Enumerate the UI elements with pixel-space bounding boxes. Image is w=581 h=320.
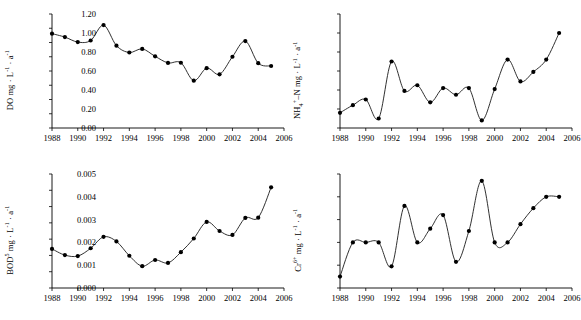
data-point-marker: [338, 111, 342, 115]
y-tick-label: 0.002: [77, 237, 96, 247]
data-point-marker: [544, 58, 548, 62]
data-point-marker: [428, 100, 432, 104]
data-point-marker: [269, 185, 273, 189]
data-point-marker: [493, 240, 497, 244]
y-tick-label: 0.40: [81, 85, 96, 95]
data-point-marker: [454, 260, 458, 264]
y-axis-label-bod5: BOD5 mg · L-1 · a-1: [2, 160, 18, 320]
data-point-marker: [531, 70, 535, 74]
data-point-marker: [63, 35, 67, 39]
y-tick-label: 0.001: [77, 260, 96, 270]
y-axis-label-cr6: Cr6+ mg · L-1 · a-1: [290, 160, 306, 320]
data-point-marker: [230, 233, 234, 237]
panel-do: DO mg · L-1 · a-1 0.01.02.03.04.05.06.07…: [0, 0, 288, 160]
y-tick-label: 0.00: [81, 123, 96, 133]
data-point-marker: [351, 103, 355, 107]
y-tick-label: 0.004: [77, 192, 96, 202]
data-point-marker: [467, 229, 471, 233]
data-point-marker: [217, 229, 221, 233]
data-point-marker: [518, 222, 522, 226]
data-point-marker: [557, 31, 561, 35]
y-tick-label: 0.000: [77, 283, 96, 293]
data-point-marker: [192, 79, 196, 83]
y-tick-label: 1.00: [81, 28, 96, 38]
data-point-marker: [153, 54, 157, 58]
data-point-marker: [205, 66, 209, 70]
y-tick-label: 0.20: [81, 104, 96, 114]
data-point-marker: [192, 236, 196, 240]
data-point-marker: [557, 195, 561, 199]
plot-svg-cr6: [306, 160, 576, 320]
plot-svg-nh4n: [306, 0, 576, 160]
data-point-marker: [101, 23, 105, 27]
data-point-marker: [364, 240, 368, 244]
data-point-marker: [493, 87, 497, 91]
data-point-marker: [441, 213, 445, 217]
data-point-marker: [544, 195, 548, 199]
data-point-marker: [50, 247, 54, 251]
data-point-marker: [230, 55, 234, 59]
data-point-marker: [338, 275, 342, 279]
data-point-marker: [101, 235, 105, 239]
axis-lines: [340, 14, 572, 128]
data-point-marker: [377, 116, 381, 120]
data-point-marker: [50, 32, 54, 36]
data-point-marker: [402, 89, 406, 93]
data-point-marker: [153, 258, 157, 262]
data-point-marker: [127, 50, 131, 54]
data-point-marker: [217, 72, 221, 76]
data-point-marker: [402, 204, 406, 208]
data-point-marker: [114, 239, 118, 243]
y-axis-label-nh4n: NH4+–N mg · L-1 · a-1: [290, 0, 306, 160]
data-point-marker: [389, 264, 393, 268]
data-point-marker: [415, 83, 419, 87]
plot-area-cr6: 0.0000.0010.0020.0030.0040.005 198819901…: [306, 160, 576, 320]
data-point-marker: [114, 44, 118, 48]
y-tick-label: 1.20: [81, 9, 96, 19]
data-point-marker: [351, 240, 355, 244]
data-point-marker: [179, 61, 183, 65]
data-point-marker: [256, 216, 260, 220]
data-point-marker: [243, 39, 247, 43]
y-tick-label: 0.003: [77, 215, 96, 225]
data-point-marker: [166, 261, 170, 265]
plot-area-bod5: 0.000.501.001.502.002.503.003.50 1988199…: [18, 160, 288, 320]
axis-lines: [340, 174, 572, 288]
data-point-marker: [205, 220, 209, 224]
y-tick-label: 0.005: [77, 169, 96, 179]
data-point-marker: [505, 58, 509, 62]
data-point-marker: [63, 253, 67, 257]
data-point-marker: [256, 61, 260, 65]
panel-nh4n: NH4+–N mg · L-1 · a-1 0.000.200.400.600.…: [288, 0, 576, 160]
data-point-marker: [441, 86, 445, 90]
plot-area-nh4n: 0.000.200.400.600.801.001.20 19881990199…: [306, 0, 576, 160]
data-point-marker: [76, 40, 80, 44]
y-tick-label: 0.80: [81, 47, 96, 57]
data-point-marker: [166, 61, 170, 65]
data-point-marker: [364, 97, 368, 101]
data-series-line: [340, 181, 559, 277]
data-point-marker: [428, 227, 432, 231]
data-point-marker: [243, 216, 247, 220]
data-point-marker: [480, 179, 484, 183]
data-point-marker: [454, 93, 458, 97]
data-point-marker: [89, 38, 93, 42]
data-point-marker: [140, 47, 144, 51]
data-series-line: [340, 33, 559, 120]
data-point-marker: [480, 118, 484, 122]
data-point-marker: [389, 59, 393, 63]
data-point-marker: [467, 86, 471, 90]
panel-cr6: Cr6+ mg · L-1 · a-1 0.0000.0010.0020.003…: [288, 160, 576, 320]
data-point-marker: [377, 240, 381, 244]
plot-svg-bod5: [18, 160, 288, 320]
data-point-marker: [127, 254, 131, 258]
data-point-marker: [415, 240, 419, 244]
data-point-marker: [179, 250, 183, 254]
data-point-marker: [269, 64, 273, 68]
plot-area-do: 0.01.02.03.04.05.06.07.08.0 198819901992…: [18, 0, 288, 160]
y-axis-label-do: DO mg · L-1 · a-1: [2, 0, 18, 160]
y-tick-label: 0.60: [81, 66, 96, 76]
data-point-marker: [140, 264, 144, 268]
plot-svg-do: [18, 0, 288, 160]
